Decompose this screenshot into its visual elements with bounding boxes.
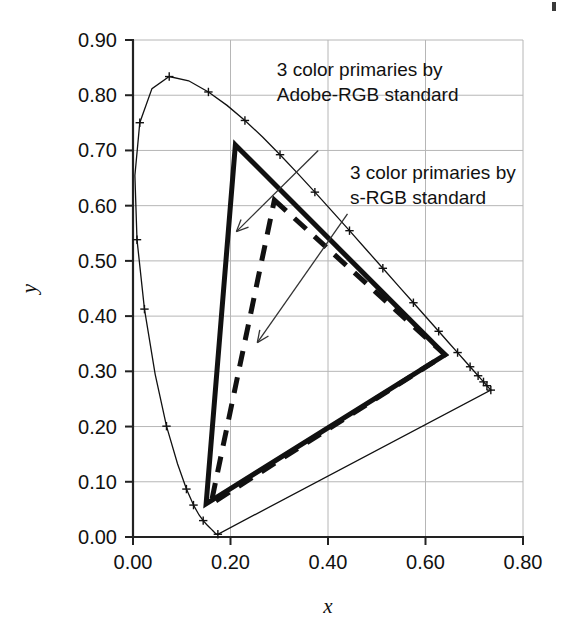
y-tick-label-7: 0.70 (78, 139, 117, 161)
y-tick-label-9: 0.90 (78, 29, 117, 51)
srgb-annotation-line-1: s-RGB standard (350, 187, 486, 208)
x-tick-label-1: 0.20 (211, 551, 250, 573)
x-tick-label-3: 0.60 (406, 551, 445, 573)
srgb-annotation-leader-line (257, 214, 347, 343)
y-tick-label-3: 0.30 (78, 360, 117, 382)
y-tick-label-0: 0.00 (78, 526, 117, 548)
series-path-spectral-locus (135, 77, 491, 535)
adobe-rgb-annotation-line-0: 3 color primaries by (277, 59, 443, 80)
data-series (133, 72, 495, 538)
y-tick-label-2: 0.20 (78, 416, 117, 438)
y-tick-label-8: 0.80 (78, 84, 117, 106)
y-tick-label-1: 0.10 (78, 471, 117, 493)
adobe-rgb-annotation-line-1: Adobe-RGB standard (277, 84, 459, 105)
y-tick-label-5: 0.50 (78, 250, 117, 272)
srgb-annotation: 3 color primaries bys-RGB standard (257, 162, 516, 342)
series-spectral-locus (133, 72, 495, 538)
chart-canvas: 0.000.100.200.300.400.500.600.700.800.90… (0, 0, 582, 644)
adobe-rgb-annotation-leader-line (236, 150, 318, 231)
axis-titles: xy (17, 283, 333, 618)
x-axis-title: x (322, 594, 333, 618)
chromaticity-diagram-figure: 0.000.100.200.300.400.500.600.700.800.90… (0, 0, 582, 644)
x-tick-label-4: 0.80 (504, 551, 543, 573)
x-tick-label-0: 0.00 (114, 551, 153, 573)
y-tick-label-6: 0.60 (78, 195, 117, 217)
grid-lines (133, 40, 523, 537)
y-axis-title: y (17, 283, 41, 295)
axis-ticks (125, 40, 523, 545)
srgb-annotation-line-0: 3 color primaries by (350, 162, 516, 183)
y-tick-label-4: 0.40 (78, 305, 117, 327)
x-tick-label-2: 0.40 (309, 551, 348, 573)
tick-labels: 0.000.100.200.300.400.500.600.700.800.90… (78, 29, 542, 573)
